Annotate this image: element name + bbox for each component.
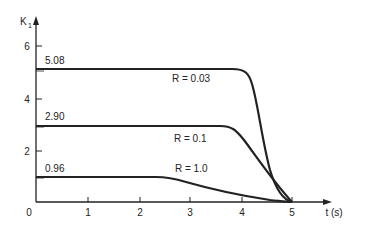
- curve-r-1-0: [36, 177, 292, 202]
- initial-value-label-r-0-1: 2.90: [45, 111, 65, 122]
- y-tick-label-4: 4: [24, 94, 30, 105]
- y-ticks: [36, 46, 42, 151]
- x-axis-arrow-icon: [323, 199, 332, 205]
- y-axis-arrow-icon: [33, 16, 39, 25]
- k1-vs-time-chart: 0 1 2 3 4 5 t (s) 6 4 2 K 1 5.08 2.90 0.…: [0, 0, 370, 230]
- x-tick-label-5: 5: [289, 207, 295, 218]
- curve-r-0-03: [36, 69, 292, 202]
- y-tick-label-6: 6: [24, 41, 30, 52]
- x-tick-label-1: 1: [85, 207, 91, 218]
- x-tick-label-3: 3: [187, 207, 193, 218]
- y-tick-label-2: 2: [24, 146, 30, 157]
- initial-value-label-r-1-0: 0.96: [45, 163, 65, 174]
- chart-canvas: 0 1 2 3 4 5 t (s) 6 4 2 K 1 5.08 2.90 0.…: [0, 0, 370, 230]
- initial-value-marks: [36, 71, 44, 178]
- curve-label-r-0-03: R = 0.03: [172, 73, 211, 84]
- curve-label-r-1-0: R = 1.0: [175, 163, 208, 174]
- x-tick-label-2: 2: [137, 207, 143, 218]
- curve-r-0-1: [36, 126, 292, 202]
- initial-value-label-r-0-03: 5.08: [45, 55, 65, 66]
- y-axis-title-subscript: 1: [28, 22, 32, 29]
- y-axis-title: K: [20, 16, 27, 27]
- x-tick-label-0: 0: [26, 207, 32, 218]
- x-tick-label-4: 4: [239, 207, 245, 218]
- x-axis-title: t (s): [325, 207, 342, 218]
- curve-label-r-0-1: R = 0.1: [174, 133, 207, 144]
